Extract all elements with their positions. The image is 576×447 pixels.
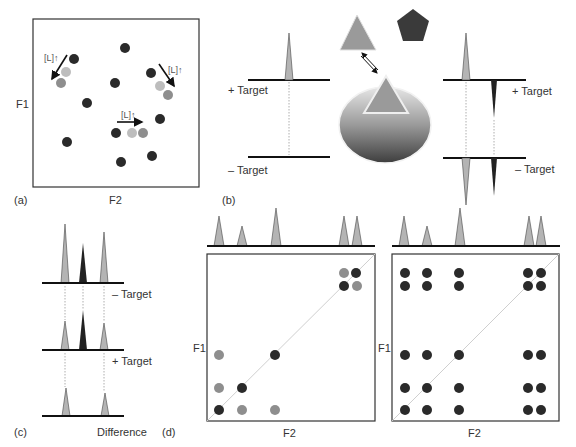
minus-target-label: – Target [112, 288, 152, 300]
panel-label: (b) [222, 194, 235, 206]
resonance-dot [61, 67, 71, 77]
cross-peak-dot [422, 281, 432, 291]
panel-label: (a) [14, 194, 27, 206]
panel-d: F1 F2 (d) F1 F2 [162, 208, 560, 439]
spectrum-peak [79, 310, 87, 350]
projection-spectrum-left [214, 208, 362, 246]
cross-peak-dot [536, 405, 546, 415]
cross-peak-dot [352, 281, 362, 291]
spectrum-peak [237, 226, 247, 246]
cross-peak-dot [400, 405, 410, 415]
projection-spectrum-right [399, 208, 546, 246]
cross-peak-dot [454, 281, 464, 291]
binding-arrow-icon [361, 56, 377, 73]
diagonal-line [392, 254, 559, 421]
resonance-dot [56, 78, 66, 88]
panel-a-dots [56, 43, 173, 167]
plus-target-label: + Target [512, 85, 552, 97]
x-axis-label: F2 [283, 427, 296, 439]
cross-peak-dot [339, 268, 349, 278]
unbinding-arrow-icon [362, 53, 378, 70]
figure-canvas: [L]↑ [L]↑ [L]↑ F1 F2 (a) + Target – Targ… [0, 0, 576, 447]
cross-peak-dot [536, 350, 546, 360]
cross-peak-dot [536, 383, 546, 393]
cross-peak-dot [454, 383, 464, 393]
spectrum-peak [61, 224, 69, 283]
spectrum-peak [100, 232, 108, 283]
plus-target-label: + Target [228, 84, 268, 96]
panel-label: (c) [14, 426, 27, 438]
cross-peak-dot [523, 350, 533, 360]
cross-peak-dot [523, 281, 533, 291]
spectrum-peak [455, 208, 465, 246]
resonance-dot [163, 90, 173, 100]
cross-peak-dot [400, 268, 410, 278]
cross-peak-dot [351, 268, 361, 278]
cross-peak-dot [400, 383, 410, 393]
cross-peak-dot [339, 281, 349, 291]
resonance-dot [116, 157, 126, 167]
resonance-dot [120, 43, 130, 53]
plus-target-label: + Target [112, 355, 152, 367]
spectrum-peak [422, 226, 432, 246]
cross-peak-dot [400, 281, 410, 291]
resonance-dot [82, 98, 92, 108]
spectrum-peak-inverted [462, 158, 470, 205]
resonance-dot [110, 78, 120, 88]
panel-a: [L]↑ [L]↑ [L]↑ F1 F2 (a) [14, 19, 199, 206]
difference-label: Difference [97, 426, 147, 438]
cross-peak-dot [454, 405, 464, 415]
y-axis-label: F1 [193, 342, 206, 354]
cross-peak-dot [237, 383, 247, 393]
panel-c: – Target + Target (c) Difference [14, 224, 152, 438]
x-axis-label: F2 [109, 194, 122, 206]
spectrum-peak-inverted [491, 158, 497, 196]
spectrum-peak [524, 216, 534, 246]
cross-peak-dot [270, 350, 280, 360]
x-axis-label: F2 [468, 427, 481, 439]
minus-target-label: – Target [515, 163, 555, 175]
spectrum-peak [462, 33, 470, 80]
resonance-dot [146, 68, 156, 78]
cross-peak-dot [523, 405, 533, 415]
noesy-cross-peaks [214, 268, 362, 415]
cross-peak-dot [214, 350, 224, 360]
ligand-triangle-icon [340, 15, 376, 50]
spectrum-peak-inverted [491, 80, 497, 118]
y-axis-label: F1 [16, 98, 29, 110]
cross-peak-dot [237, 405, 247, 415]
cross-peak-dot [523, 383, 533, 393]
cross-peak-dot [270, 405, 280, 415]
spectrum-peak [399, 216, 409, 246]
spectrum-peak [352, 216, 362, 246]
spectrum-peak [339, 216, 349, 246]
panel-label: (d) [162, 426, 175, 438]
cross-peak-dot [454, 350, 464, 360]
cross-peak-dot [214, 383, 224, 393]
cross-peak-dot [523, 268, 533, 278]
cross-peak-dot [422, 350, 432, 360]
cross-peak-dot [422, 268, 432, 278]
spectrum-peak [101, 393, 109, 416]
spectrum-peak [536, 216, 546, 246]
shift-label: [L]↑ [44, 53, 59, 63]
spectrum-peak [285, 33, 293, 80]
cross-peak-dot [536, 281, 546, 291]
spectrum-peak [62, 388, 70, 416]
resonance-dot [127, 128, 137, 138]
cross-peak-dot [536, 268, 546, 278]
resonance-dot [62, 137, 72, 147]
resonance-dot [155, 114, 165, 124]
ligand-pentagon-icon [397, 9, 429, 41]
y-axis-label: F1 [378, 342, 391, 354]
cross-peak-dot [422, 405, 432, 415]
spectrum-peak [271, 208, 281, 246]
spectrum-peak [214, 216, 224, 246]
resonance-dot [111, 128, 121, 138]
spectrum-peak [100, 323, 108, 350]
spectrum-peak [79, 243, 87, 283]
noesy-cross-peaks [400, 268, 546, 415]
cross-peak-dot [400, 350, 410, 360]
cross-peak-dot [422, 383, 432, 393]
panel-a-plot-frame [33, 19, 199, 187]
